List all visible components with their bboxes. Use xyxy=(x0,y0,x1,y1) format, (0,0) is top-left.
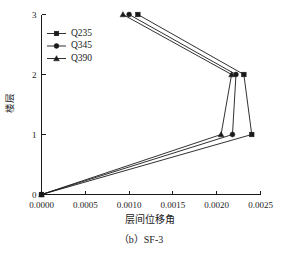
x-axis-tick-labels: 0.00000.00050.00100.00150.00200.0025 xyxy=(29,200,273,210)
legend-marker-square xyxy=(54,31,59,36)
x-tick-label: 0.0005 xyxy=(73,200,98,210)
x-axis-title: 层间位移角 xyxy=(125,213,175,225)
y-axis-title: 楼层 xyxy=(4,93,15,113)
figure-caption: （b）SF-3 xyxy=(119,234,163,245)
y-tick-label: 2 xyxy=(32,70,37,80)
data-point-triangle xyxy=(218,132,224,137)
figure-container: 0.00000.00050.00100.00150.00200.0025 012… xyxy=(0,0,281,255)
interstory-drift-chart: 0.00000.00050.00100.00150.00200.0025 012… xyxy=(0,0,281,255)
legend-label-q235: Q235 xyxy=(71,28,92,38)
x-tick-label: 0.0020 xyxy=(204,200,229,210)
y-tick-label: 1 xyxy=(32,130,37,140)
y-tick-label: 0 xyxy=(32,190,37,200)
x-axis-ticks xyxy=(42,191,261,195)
x-tick-label: 0.0015 xyxy=(161,200,186,210)
legend-marker-circle xyxy=(54,44,59,49)
x-tick-label: 0.0000 xyxy=(29,200,54,210)
x-tick-label: 0.0025 xyxy=(248,200,273,210)
data-point-square xyxy=(249,132,254,137)
data-point-square xyxy=(242,72,247,77)
data-point-square xyxy=(136,12,141,17)
y-tick-label: 3 xyxy=(32,10,37,20)
legend-label-q390: Q390 xyxy=(71,53,92,63)
chart-legend: Q235Q345Q390 xyxy=(47,28,92,63)
data-point-triangle xyxy=(120,12,126,17)
y-axis-tick-labels: 0123 xyxy=(32,10,37,200)
data-point-circle xyxy=(230,132,235,137)
data-point-circle xyxy=(127,12,132,17)
legend-label-q345: Q345 xyxy=(71,40,92,50)
y-axis-ticks xyxy=(42,15,46,195)
x-tick-label: 0.0010 xyxy=(117,200,142,210)
